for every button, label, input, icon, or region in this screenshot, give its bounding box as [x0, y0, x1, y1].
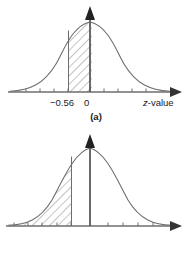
panel-a: −0.56 0 z-value (a) — [0, 0, 192, 130]
x-axis-label-suffix-a: -value — [148, 97, 174, 108]
caption-a: (a) — [0, 112, 192, 122]
tick-label-zero-a: 0 — [84, 98, 89, 108]
normal-curve-chart-a — [0, 0, 192, 112]
normal-distribution-figure: −0.56 0 z-value (a) — [0, 0, 192, 271]
panel-b: −0.56 0 z-value (b) — [0, 130, 192, 271]
plot-area-a: −0.56 0 z-value — [0, 0, 192, 112]
x-axis-label-a: z-value — [143, 98, 174, 108]
normal-curve-chart-b — [0, 130, 192, 250]
plot-area-b: −0.56 0 z-value — [0, 130, 192, 250]
y-axis-arrowhead-b — [85, 134, 95, 148]
x-axis-arrowhead-a — [170, 87, 182, 97]
x-axis-arrowhead-b — [170, 221, 182, 231]
y-axis-arrowhead-a — [85, 6, 95, 20]
tick-label-neg-056-a: −0.56 — [50, 98, 74, 108]
